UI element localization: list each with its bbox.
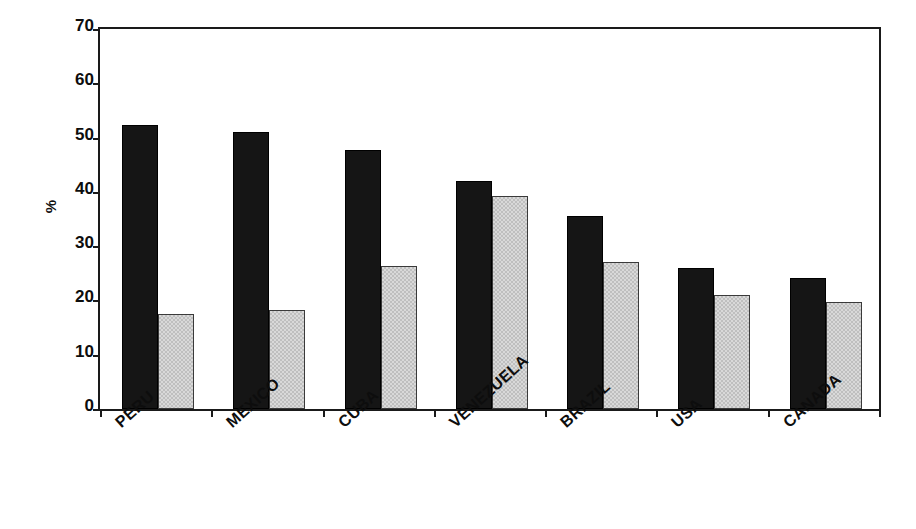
plot-inner [100,29,879,409]
y-axis-tick-label-column: 706050403020100 [54,0,94,529]
bar-cuba-series-2 [381,266,417,409]
y-axis-tick-label: 0 [60,397,94,414]
bar-venezuela-series-1 [456,181,492,409]
y-axis-tick-label: 20 [60,288,94,305]
y-axis-tick-label: 30 [60,234,94,251]
x-axis-tick-mark [434,409,436,417]
x-axis-tick-mark [656,409,658,417]
y-axis-tick-mark [93,29,100,31]
x-axis-tick-mark [879,409,881,417]
y-axis-tick-mark [93,83,100,85]
y-axis-tick-label: 60 [60,71,94,88]
x-axis-tick-mark [545,409,547,417]
x-axis-tick-mark [211,409,213,417]
y-axis-tick-mark [93,409,100,411]
y-axis-tick-mark [93,138,100,140]
y-axis-tick-label: 40 [60,180,94,197]
y-axis-tick-mark [93,246,100,248]
y-axis-tick-label: 10 [60,343,94,360]
bar-usa-series-2 [714,295,750,409]
bar-peru-series-1 [122,125,158,409]
bar-usa-series-1 [678,268,714,409]
y-axis-tick-label: 50 [60,126,94,143]
y-axis-tick-label: 70 [60,17,94,34]
bar-chart-figure: % 706050403020100 PERUMEXICOCUBAVENEZUEL… [0,0,916,529]
x-axis-tick-mark [100,409,102,417]
x-axis-tick-mark [323,409,325,417]
y-axis-tick-mark [93,192,100,194]
x-axis-tick-mark [768,409,770,417]
bar-peru-series-2 [158,314,194,409]
y-axis-tick-mark [93,300,100,302]
y-axis-tick-mark [93,355,100,357]
bar-cuba-series-1 [345,150,381,409]
bar-mexico-series-1 [233,132,269,409]
plot-area [98,27,881,411]
